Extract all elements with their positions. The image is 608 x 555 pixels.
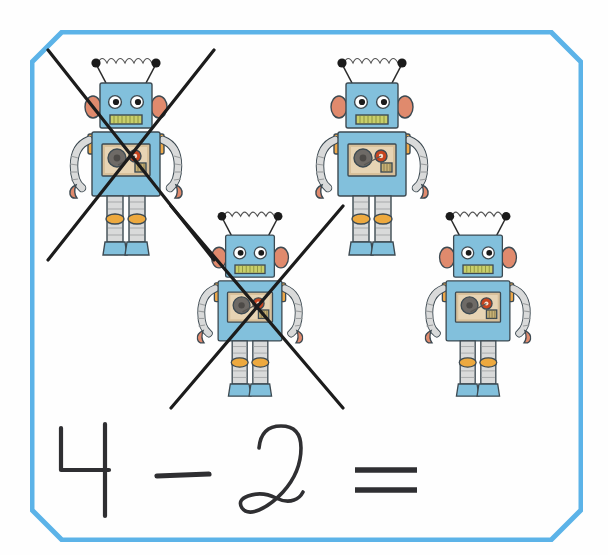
antenna-left-ball (218, 212, 227, 221)
equation-subtrahend (240, 426, 303, 512)
pupil-right (258, 250, 264, 256)
robot-1[interactable] (62, 52, 190, 274)
mouth-teeth (114, 116, 138, 123)
pupil-right (381, 99, 387, 105)
equation-equals (355, 470, 417, 490)
hand-left (70, 185, 77, 198)
ear-left (331, 96, 347, 118)
mouth-teeth (360, 116, 384, 123)
hand-right (175, 185, 182, 198)
knee-left (231, 358, 248, 367)
antenna-spring-coil (344, 59, 398, 64)
foot-right (249, 384, 272, 396)
foot-left (103, 242, 127, 255)
knee-right (128, 214, 146, 224)
pupil-right (135, 99, 141, 105)
ear-right (273, 247, 288, 268)
knee-left (459, 358, 476, 367)
equation-minuend (61, 424, 109, 516)
robot-4[interactable] (418, 206, 538, 414)
antenna-right-ball (397, 58, 406, 67)
equation-row (45, 418, 465, 528)
knee-left (352, 214, 370, 224)
ear-left (212, 247, 227, 268)
mouth-teeth (239, 266, 262, 273)
equation-answer-blank[interactable] (427, 438, 461, 508)
ear-left (440, 247, 455, 268)
pupil-right (486, 250, 492, 256)
hand-left (425, 331, 432, 343)
knee-right (374, 214, 392, 224)
worksheet-page (0, 0, 608, 555)
knee-left (106, 214, 124, 224)
knee-right (252, 358, 269, 367)
hand-right (421, 185, 428, 198)
foot-left (349, 242, 373, 255)
hand-left (197, 331, 204, 343)
pupil-left (359, 99, 365, 105)
antenna-left-ball (446, 212, 455, 221)
antenna-spring-coil (224, 212, 275, 216)
robot-3[interactable] (190, 206, 310, 414)
hand-right (524, 331, 531, 343)
mouth-teeth (467, 266, 490, 273)
foot-left (456, 384, 479, 396)
antenna-right-ball (151, 58, 160, 67)
foot-left (228, 384, 251, 396)
knee-right (480, 358, 497, 367)
ear-right (151, 96, 167, 118)
ear-right (397, 96, 413, 118)
foot-right (125, 242, 149, 255)
hand-left (316, 185, 323, 198)
antenna-left-ball (91, 58, 100, 67)
antenna-spring-coil (452, 212, 503, 216)
foot-right (371, 242, 395, 255)
pupil-left (466, 250, 472, 256)
foot-right (477, 384, 500, 396)
pupil-left (113, 99, 119, 105)
equation-operator (157, 474, 209, 476)
robot-2[interactable] (308, 52, 436, 274)
antenna-right-ball (502, 212, 511, 221)
ear-left (85, 96, 101, 118)
hand-right (296, 331, 303, 343)
antenna-spring-coil (98, 59, 152, 64)
ear-right (501, 247, 516, 268)
antenna-left-ball (337, 58, 346, 67)
antenna-right-ball (274, 212, 283, 221)
pupil-left (238, 250, 244, 256)
